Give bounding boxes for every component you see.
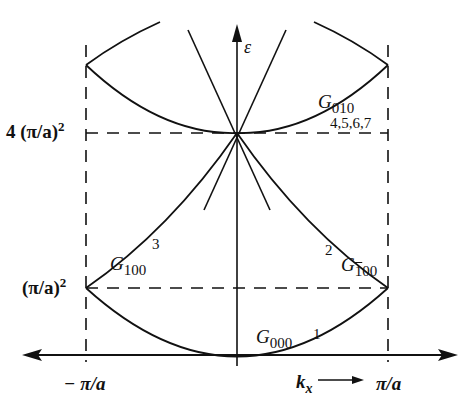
band-index-4567: 4,5,6,7 (330, 116, 371, 131)
band-label-g-bar100: G100 (341, 255, 377, 279)
x-tick-neg-pi-a: − π/a (64, 374, 105, 393)
y-tick-pi-a-sq: (π/a)2 (22, 276, 66, 297)
band-index-1: 1 (313, 327, 321, 342)
energy-axis (232, 24, 242, 366)
band-index-3: 3 (152, 237, 160, 252)
band-diagram-canvas (0, 0, 470, 402)
band-label-g010: G010 (318, 92, 354, 116)
upper-band-left (86, 22, 160, 65)
band-index-2: 2 (325, 243, 333, 258)
band-3-curve (86, 133, 237, 288)
y-tick-4pi-a-sq: 4 (π/a)2 (6, 120, 65, 141)
x-tick-pi-a: π/a (376, 374, 401, 393)
energy-axis-label: ε (244, 38, 251, 56)
band-label-g100: G100 (110, 254, 146, 278)
band-label-g000: G000 (256, 327, 292, 351)
kx-axis (22, 349, 458, 361)
kx-label: kx (296, 372, 313, 396)
upper-band-right (314, 22, 388, 65)
